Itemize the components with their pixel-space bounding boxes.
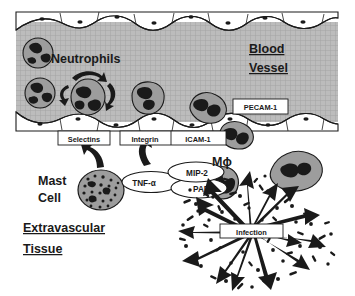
label-selectins: Selectins — [68, 135, 100, 144]
neutrophil-rolling — [71, 79, 105, 115]
label-extravascular-line2: Tissue — [23, 242, 62, 256]
label-integrin: Integrin — [131, 135, 159, 144]
label-blood-vessel-line2: Vessel — [249, 61, 288, 75]
label-box-selectins: Selectins — [58, 131, 110, 145]
label-icam1: ICAM-1 — [185, 135, 210, 144]
label-neutrophils: Neutrophils — [51, 52, 120, 66]
neutrophil-free-lower-left — [25, 78, 55, 108]
mast-cell — [78, 170, 124, 210]
neutrophil-in-tissue — [270, 151, 322, 191]
label-box-pecam1: PECAM-1 — [233, 99, 288, 114]
immune-cell-recruitment-diagram: TNF-α MIP-2 PAF — [0, 0, 355, 296]
label-pecam1: PECAM-1 — [244, 103, 277, 112]
label-mast-cell-line2: Cell — [38, 191, 61, 205]
label-box-integrin-icam: Integrin ICAM-1 — [120, 131, 226, 145]
label-mip2: MIP-2 — [186, 169, 208, 178]
label-tnf-alpha: TNF-α — [132, 179, 156, 188]
label-blood-vessel-line1: Blood — [249, 42, 284, 56]
label-extravascular-line1: Extravascular — [23, 221, 105, 235]
neutrophil-adherent-integrin — [132, 82, 164, 114]
blood-vessel-lumen — [16, 22, 338, 122]
label-mast-cell-line1: Mast — [38, 174, 67, 188]
label-macrophage: Mϕ — [212, 155, 232, 169]
neutrophil-free-upper-left — [23, 38, 53, 68]
label-infection: Infection — [236, 228, 267, 237]
